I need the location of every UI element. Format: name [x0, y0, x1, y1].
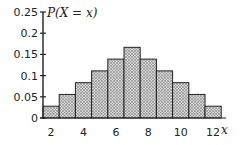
x-tick-label: 8	[145, 126, 152, 139]
x-tick-label: 6	[112, 126, 119, 139]
x-tick-label: 12	[206, 126, 220, 139]
bar-11	[189, 94, 205, 118]
bar-9	[156, 71, 172, 118]
bar-5	[92, 71, 108, 118]
bar-8	[140, 59, 156, 118]
probability-histogram: 00.050.10.150.20.2524681012 P(X = x) x	[0, 0, 246, 145]
bar-12	[205, 106, 221, 118]
x-tick-label: 2	[48, 126, 55, 139]
y-tick-label: 0.15	[14, 48, 39, 61]
bars	[43, 47, 221, 118]
x-axis-label: x	[221, 123, 228, 137]
bar-6	[108, 59, 124, 118]
y-tick-label: 0.2	[21, 27, 39, 40]
y-tick-label: 0.05	[14, 91, 39, 104]
y-axis-label: P(X = x)	[46, 6, 98, 20]
x-tick-label: 10	[174, 126, 188, 139]
y-tick-label: 0.25	[14, 6, 39, 19]
bar-4	[75, 83, 91, 118]
x-tick-label: 4	[80, 126, 87, 139]
bar-10	[173, 83, 189, 118]
bar-2	[43, 106, 59, 118]
y-tick-label: 0.1	[21, 70, 39, 83]
y-tick-label: 0	[31, 112, 38, 125]
bar-3	[59, 94, 75, 118]
bar-7	[124, 47, 140, 118]
